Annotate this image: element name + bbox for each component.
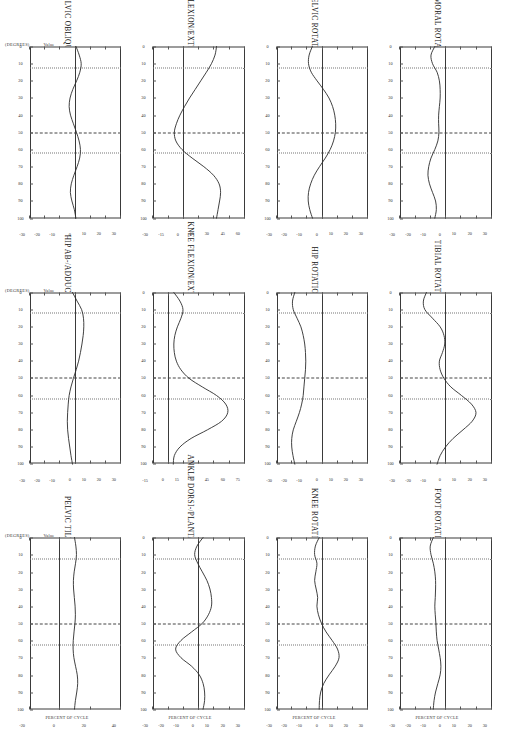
y-tick-label: 0 <box>316 477 318 482</box>
plot-cell: KNEE ROTATION0102030405060708090100-30-2… <box>253 501 375 739</box>
y-tick-label: -30 <box>266 477 272 482</box>
x-tick-label: 20 <box>265 569 269 574</box>
x-tick-label: 80 <box>389 181 393 186</box>
y-tick-label: 20 <box>467 723 471 728</box>
y-tick-label: -10 <box>50 231 56 236</box>
x-tick-labels: 0102030405060708090100 <box>265 537 275 709</box>
kinematic-curve <box>30 537 122 709</box>
x-axis-caption: PERCENT OF CYCLE <box>416 715 459 720</box>
x-tick-label: 80 <box>18 426 22 431</box>
x-tick-label: 20 <box>142 78 146 83</box>
y-tick-label: 30 <box>112 231 116 236</box>
y-tick-label: -30 <box>390 231 396 236</box>
x-tick-label: 30 <box>18 341 22 346</box>
kinematic-curve <box>277 46 369 218</box>
x-tick-label: 80 <box>18 672 22 677</box>
kinematic-curve <box>401 292 493 464</box>
y-tick-label: 30 <box>359 477 363 482</box>
x-tick-labels: 0102030405060708090100 <box>142 537 152 709</box>
y-tick-label: 20 <box>82 723 86 728</box>
x-tick-label: 20 <box>142 323 146 328</box>
x-tick-label: 50 <box>265 129 269 134</box>
x-tick-label: 90 <box>142 198 146 203</box>
x-tick-label: 90 <box>265 689 269 694</box>
y-tick-label: 30 <box>205 231 209 236</box>
y-tick-label: 0 <box>439 477 441 482</box>
y-tick-labels: -30-20-100102030 <box>401 220 493 242</box>
x-tick-label: 10 <box>265 552 269 557</box>
y-tick-label: 20 <box>344 723 348 728</box>
x-tick-label: 20 <box>265 78 269 83</box>
x-tick-label: 90 <box>265 444 269 449</box>
y-tick-label: -20 <box>282 723 288 728</box>
x-tick-label: 40 <box>142 112 146 117</box>
x-tick-label: 70 <box>142 655 146 660</box>
y-tick-label: -10 <box>297 723 303 728</box>
y-tick-label: -20 <box>158 723 164 728</box>
plot-cell: TIBIAL ROTATION0102030405060708090100-30… <box>377 256 499 494</box>
y-tick-label: 45 <box>220 231 224 236</box>
x-tick-label: 50 <box>18 129 22 134</box>
y-tick-labels: -30-20-100102030 <box>154 711 246 733</box>
y-tick-label: -30 <box>266 723 272 728</box>
y-tick-label: -10 <box>420 723 426 728</box>
x-tick-label: 40 <box>265 112 269 117</box>
y-tick-label: 30 <box>483 477 487 482</box>
y-tick-label: 75 <box>236 477 240 482</box>
x-tick-label: 100 <box>388 461 394 466</box>
x-tick-label: 20 <box>265 323 269 328</box>
x-tick-label: 30 <box>18 586 22 591</box>
x-tick-label: 30 <box>389 586 393 591</box>
x-tick-label: 90 <box>389 444 393 449</box>
y-tick-label: 0 <box>177 231 179 236</box>
kinematic-curve <box>30 46 122 218</box>
x-tick-label: 10 <box>18 552 22 557</box>
plot-title: KNEE ROTATION <box>253 501 375 535</box>
x-tick-label: 70 <box>265 409 269 414</box>
kinematic-curve <box>154 537 246 709</box>
x-tick-label: 10 <box>18 61 22 66</box>
x-tick-label: 90 <box>18 689 22 694</box>
x-tick-label: 40 <box>18 112 22 117</box>
y-tick-label: 10 <box>82 231 86 236</box>
x-tick-label: 50 <box>265 621 269 626</box>
plot-axes <box>277 46 369 218</box>
plot-axes <box>277 292 369 464</box>
x-tick-label: 40 <box>18 603 22 608</box>
x-tick-labels: 0102030405060708090100 <box>142 46 152 218</box>
y-tick-labels: -30-20-100102030 <box>401 465 493 487</box>
plot-axes <box>401 46 493 218</box>
x-tick-labels: 0102030405060708090100 <box>18 46 28 218</box>
kinematic-curve <box>401 537 493 709</box>
x-tick-label: 50 <box>389 621 393 626</box>
x-tick-label: 80 <box>265 181 269 186</box>
x-tick-label: 40 <box>18 358 22 363</box>
plot-cell: HIP ROTATION0102030405060708090100-30-20… <box>253 256 375 494</box>
plot-cell: PELVIC ROTATION0102030405060708090100-30… <box>253 10 375 248</box>
y-tick-label: -20 <box>19 723 25 728</box>
x-tick-label: 70 <box>18 409 22 414</box>
x-tick-label: 30 <box>265 341 269 346</box>
plot-title: KNEE FLEXION/EXTENSION <box>130 256 252 290</box>
y-tick-label: 60 <box>220 477 224 482</box>
x-tick-label: 70 <box>265 164 269 169</box>
x-tick-label: 50 <box>18 621 22 626</box>
x-tick-label: 50 <box>389 129 393 134</box>
kinematic-curve <box>30 292 122 464</box>
x-tick-label: 40 <box>142 603 146 608</box>
x-tick-label: 30 <box>265 95 269 100</box>
x-tick-labels: 0102030405060708090100 <box>389 537 399 709</box>
x-tick-label: 80 <box>142 672 146 677</box>
plot-cell: PELVIC TILT0102030405060708090100-200204… <box>6 501 128 739</box>
x-tick-label: 30 <box>142 586 146 591</box>
y-tick-labels: -30-20-100102030 <box>30 220 122 242</box>
y-tick-label: 0 <box>69 477 71 482</box>
plot-title: FOOT ROTATION <box>377 501 499 535</box>
x-tick-label: 90 <box>142 444 146 449</box>
x-tick-label: 90 <box>18 444 22 449</box>
y-tick-label: -10 <box>297 477 303 482</box>
y-tick-label: 60 <box>236 231 240 236</box>
x-tick-label: 100 <box>17 461 23 466</box>
plot-title: HIP FLEXION/EXTENSION <box>130 10 252 44</box>
kinematic-curve <box>277 292 369 464</box>
